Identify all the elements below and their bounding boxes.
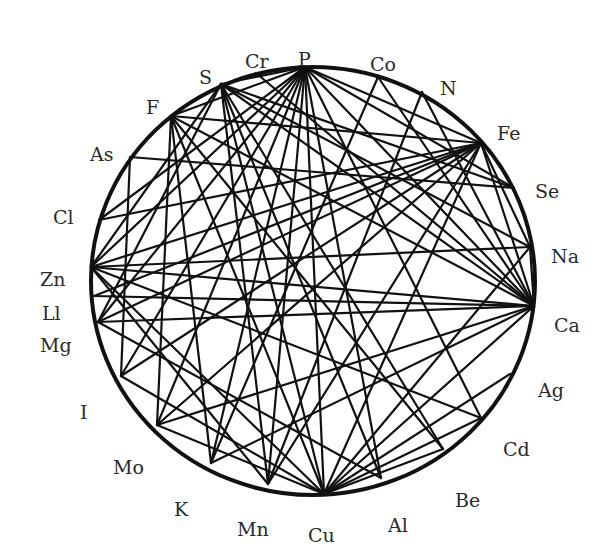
node-label-co: Co: [370, 53, 396, 75]
node-label-mn: Mn: [237, 518, 269, 540]
node-label-cr: Cr: [245, 50, 270, 72]
node-label-ag: Ag: [537, 379, 564, 401]
node-label-zn: Zn: [40, 268, 65, 290]
node-label-i: I: [80, 401, 88, 423]
chord-f-cu: [171, 116, 324, 494]
node-label-n: N: [440, 77, 457, 99]
element-chord-diagram: PCrSFAsClZnLlMgIMoKMnCuAlBeCdAgCaNaSeFeN…: [0, 0, 615, 556]
node-label-f: F: [146, 96, 159, 118]
outer-circle: [91, 67, 535, 495]
node-label-mo: Mo: [113, 456, 144, 478]
node-label-ca: Ca: [554, 314, 580, 336]
chord-cu-na: [324, 247, 530, 494]
node-label-s: S: [199, 66, 212, 88]
node-label-p: P: [298, 48, 311, 70]
node-label-na: Na: [551, 245, 579, 267]
node-label-mg: Mg: [40, 334, 72, 356]
node-label-as: As: [89, 143, 113, 165]
node-label-cd: Cd: [503, 438, 530, 460]
node-label-cl: Cl: [53, 206, 74, 228]
node-label-se: Se: [535, 180, 559, 202]
node-label-al: Al: [387, 514, 408, 536]
node-label-fe: Fe: [497, 122, 520, 144]
node-label-cu: Cu: [308, 524, 335, 546]
chord-i-fe: [121, 143, 481, 376]
chord-na-fe: [481, 143, 530, 247]
node-label-k: K: [174, 498, 189, 520]
chord-cu-cd: [324, 418, 481, 494]
chord-mo-ca: [157, 306, 534, 425]
node-label-ll: Ll: [42, 302, 61, 324]
node-label-be: Be: [455, 489, 480, 511]
